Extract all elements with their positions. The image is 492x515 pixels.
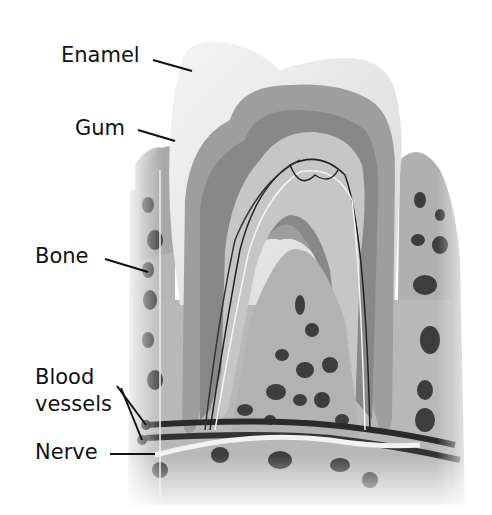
tooth-diagram: Enamel Gum Bone Blood vessels Nerve (0, 0, 492, 515)
label-vessels: vessels (35, 393, 112, 416)
label-nerve: Nerve (35, 441, 98, 464)
label-enamel: Enamel (61, 44, 140, 67)
label-gum: Gum (75, 117, 125, 140)
label-bone: Bone (35, 245, 88, 268)
label-blood: Blood (35, 366, 94, 389)
